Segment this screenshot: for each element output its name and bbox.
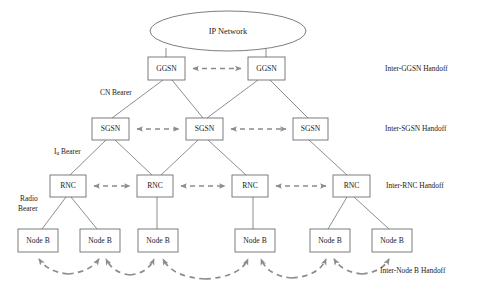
ip-network-label: IP Network — [209, 27, 248, 36]
inter-rnc-handoff-label: Inter-RNC Handoff — [386, 181, 444, 190]
rnc-1-label: RNC — [60, 181, 76, 190]
ggsn-1-label: GGSN — [156, 64, 177, 73]
node-nodeb-2[interactable]: Node B — [80, 229, 120, 252]
nodeb-6-label: Node B — [380, 236, 403, 245]
rnc-tier: RNC RNC RNC RNC — [50, 175, 370, 197]
inter-nodeb-handoff-arc-group — [39, 259, 389, 279]
node-sgsn-1[interactable]: SGSN — [92, 118, 129, 140]
nodeb-2-label: Node B — [88, 236, 111, 245]
iu-bearer-suffix: Bearer — [59, 147, 81, 156]
node-ggsn-1[interactable]: GGSN — [148, 57, 185, 80]
inter-ggsn-handoff-label: Inter-GGSN Handoff — [385, 64, 448, 73]
iu-bearer-label: Iu Bearer — [54, 147, 81, 157]
link-sgsn1-rnc1 — [70, 140, 106, 175]
network-topology-svg: IP Network GGSN GGSN SGSN SGSN — [0, 0, 478, 290]
node-nodeb-4[interactable]: Node B — [235, 229, 275, 252]
nodeb-1-label: Node B — [26, 236, 49, 245]
nodeb-3-label: Node B — [146, 236, 169, 245]
link-ggsn2-sgsn2 — [207, 80, 258, 118]
sgsn-2-label: SGSN — [195, 124, 215, 133]
ggsn-tier: GGSN GGSN — [148, 57, 285, 80]
link-sgsn2-rnc2 — [161, 140, 198, 175]
link-sgsn2-rnc3 — [208, 140, 246, 175]
nodeb-handoff-arc-2-3-left — [106, 259, 130, 275]
nodeb-tier: Node B Node B Node B Node B Node B Node … — [18, 229, 412, 252]
radio-bearer-label-line1: Radio — [20, 194, 38, 203]
link-ggsn1-sgsn1 — [112, 80, 163, 118]
rnc-4-label: RNC — [344, 181, 360, 190]
inter-nodeb-handoff-label: Inter-Node B Handoff — [380, 266, 446, 275]
link-rnc1-nodeb1 — [42, 197, 66, 229]
link-sgsn3-rnc4 — [309, 140, 347, 175]
node-nodeb-6[interactable]: Node B — [372, 229, 412, 252]
radio-bearer-label-line2: Bearer — [18, 204, 38, 213]
link-rnc1-nodeb2 — [71, 197, 97, 229]
sgsn-1-label: SGSN — [101, 124, 121, 133]
link-sgsn1-rnc2 — [115, 140, 152, 175]
node-rnc-1[interactable]: RNC — [50, 175, 86, 197]
node-nodeb-1[interactable]: Node B — [18, 229, 58, 252]
rnc-3-label: RNC — [242, 181, 258, 190]
cn-bearer-label: CN Bearer — [100, 88, 132, 97]
link-rnc4-nodeb6 — [354, 197, 389, 229]
sgsn-tier: SGSN SGSN SGSN — [92, 118, 328, 140]
link-rnc4-nodeb5 — [328, 197, 347, 229]
sgsn-3-label: SGSN — [301, 124, 321, 133]
nodeb-handoff-arc-1-2-right — [68, 259, 99, 274]
node-nodeb-5[interactable]: Node B — [310, 229, 350, 252]
nodeb-handoff-arc-4-5-left — [261, 259, 292, 278]
node-rnc-2[interactable]: RNC — [137, 175, 173, 197]
nodeb-handoff-arc-1-2-left — [39, 259, 68, 274]
nodeb-handoff-arc-3-4-left — [163, 259, 205, 279]
nodeb-handoff-arc-2-3-right — [130, 259, 154, 275]
link-ggsn2-sgsn3 — [270, 80, 308, 118]
ggsn-2-label: GGSN — [256, 64, 277, 73]
node-ggsn-2[interactable]: GGSN — [248, 57, 285, 80]
nodeb-5-label: Node B — [318, 236, 341, 245]
node-rnc-3[interactable]: RNC — [232, 175, 268, 197]
nodeb-4-label: Node B — [243, 236, 266, 245]
node-sgsn-3[interactable]: SGSN — [293, 118, 328, 140]
network-diagram-canvas: IP Network GGSN GGSN SGSN SGSN — [0, 0, 478, 290]
link-ggsn1-sgsn2 — [172, 80, 203, 118]
ip-network-cloud: IP Network — [150, 11, 306, 51]
nodeb-handoff-arc-4-5-right — [292, 259, 326, 278]
node-rnc-4[interactable]: RNC — [333, 175, 370, 197]
inter-sgsn-handoff-label: Inter-SGSN Handoff — [385, 124, 447, 133]
node-sgsn-2[interactable]: SGSN — [186, 118, 223, 140]
nodeb-handoff-arc-5-6-left — [334, 259, 362, 274]
rnc-2-label: RNC — [147, 181, 163, 190]
nodeb-handoff-arc-3-4-right — [205, 259, 248, 279]
node-nodeb-3[interactable]: Node B — [138, 229, 178, 252]
